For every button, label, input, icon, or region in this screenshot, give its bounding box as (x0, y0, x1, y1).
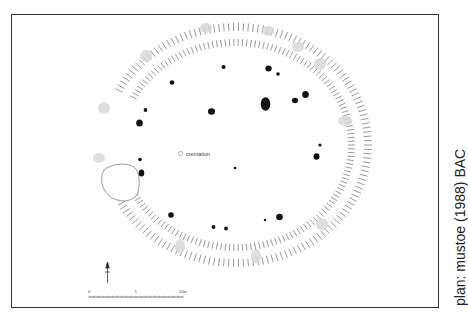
plan-credit: plan: mustoe (1988) BAC (452, 149, 468, 306)
scale-label-5: 5 (135, 289, 138, 294)
postholes (136, 65, 321, 230)
causeways (93, 23, 352, 263)
ring-ditch (115, 23, 372, 267)
pit-outline (102, 164, 140, 201)
cremation-marker (178, 151, 182, 155)
scale-bar: 0 5 10m (88, 289, 187, 298)
scale-label-0: 0 (88, 289, 91, 294)
north-arrow-icon (105, 262, 110, 283)
scale-label-10m: 10m (179, 289, 187, 294)
cremation-label: cremation (186, 151, 210, 157)
